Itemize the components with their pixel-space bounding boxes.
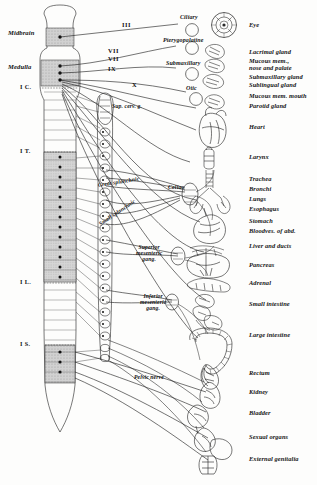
chain-ganglia (100, 128, 110, 362)
cranial-nerve-ix: IX (108, 66, 116, 73)
organ-label-larynx: Larynx (249, 154, 269, 161)
stomach-organ (194, 208, 226, 244)
organ-label-esophagus: Esophagus (249, 206, 279, 213)
cranial-nerve-vii-upper: VII (108, 48, 119, 55)
organ-label-eye: Eye (249, 22, 259, 29)
ganglion-label-inferior-mesenteric: Inferior mesenteric gang. (140, 294, 166, 311)
nasal-mucosa-organ (205, 59, 224, 72)
heart-organ (199, 107, 226, 147)
organ-label-lacrimal-gland: Lacrimal gland (249, 49, 291, 56)
nerve-label-pelvic: Pelvic nerve (134, 375, 164, 381)
organ-label-sexual-organs: Sexual organs (249, 434, 288, 441)
mucous-nose-line2: nose and palate (249, 65, 292, 72)
small-intestine-organ (193, 306, 222, 330)
ganglion-label-superior-mesenteric: Superior mesenteric gang. (136, 245, 162, 262)
organ-label-external-genitalia: External genitalia (249, 456, 299, 463)
sup-mes-line3: gang. (136, 257, 162, 263)
lacrimal-gland-organ (205, 44, 224, 58)
organ-label-pancreas: Pancreas (249, 262, 274, 269)
organ-label-small-intestine: Small intestine (249, 301, 290, 308)
organ-label-heart: Heart (249, 124, 265, 131)
ganglion-label-superior-cervical: Sup. cerv. g. (112, 104, 142, 110)
organ-label-large-intestine: Large intestine (249, 332, 290, 339)
cns-label-first-lumbar: I L. (20, 279, 31, 285)
cranial-nerve-x: X (132, 82, 137, 89)
submaxillary-gland-organ (203, 74, 224, 88)
liver-organ (187, 254, 229, 279)
organ-label-kidney: Kidney (249, 389, 268, 396)
pelvic-nerve-lines (75, 352, 208, 460)
pancreas-organ (187, 278, 230, 292)
organ-label-mucous-mem-mouth: Mucous mem. mouth (249, 93, 307, 100)
cns-label-first-thoracic: I T. (20, 148, 31, 154)
organ-label-parotid-gland: Parotid gland (249, 103, 286, 110)
external-genitalia-organ (199, 456, 217, 474)
larynx-organ (204, 147, 214, 169)
abdominal-bloodvessels-organ (190, 246, 224, 256)
cns-label-medulla: Medulla (8, 64, 31, 71)
vagus-nerve (62, 82, 206, 338)
ganglion-label-otic: Otic (186, 85, 197, 91)
bladder-organ (188, 405, 209, 434)
inf-mes-line3: gang. (140, 306, 166, 312)
cranial-nerve-vii-lower: VII (108, 56, 119, 63)
organ-label-liver-and-ducts: Liver and ducts (249, 243, 291, 250)
organ-label-bloodves-abd: Bloodves. of abd. (249, 228, 296, 235)
autonomic-nervous-system-figure: Midbrain Medulla I C. I T. I L. I S. III… (0, 0, 317, 485)
organ-label-stomach: Stomach (249, 218, 273, 225)
organ-label-rectum: Rectum (249, 370, 270, 377)
trachea-organ (206, 170, 213, 188)
parotid-gland-organ (205, 95, 224, 109)
organ-label-bladder: Bladder (249, 410, 271, 417)
ganglion-label-celiac: Celiac (168, 184, 184, 190)
cns-label-midbrain: Midbrain (8, 30, 34, 37)
cranial-nerve-iii: III (122, 22, 131, 29)
ganglion-label-pterygopalatine: Pterygopalatine (163, 37, 204, 43)
ganglion-label-submaxillary: Submaxillary (166, 60, 201, 66)
ganglion-label-ciliary: Ciliary (180, 14, 198, 20)
organ-label-trachea: Trachea (249, 176, 271, 183)
organ-label-mucous-mem-nose: Mucous mem., nose and palate (249, 58, 292, 71)
eye-organ (212, 13, 237, 38)
cns-label-first-cervical: I C. (20, 84, 32, 90)
organ-label-adrenal: Adrenal (249, 280, 271, 287)
organ-label-bronchi: Bronchi (249, 186, 271, 193)
organ-label-lungs: Lungs (249, 196, 266, 203)
organ-label-submaxillary-gland: Submaxillary gland (249, 74, 303, 81)
organ-label-sublingual-gland: Sublingual gland (249, 82, 296, 89)
cns-label-first-sacral: I S. (20, 341, 31, 347)
